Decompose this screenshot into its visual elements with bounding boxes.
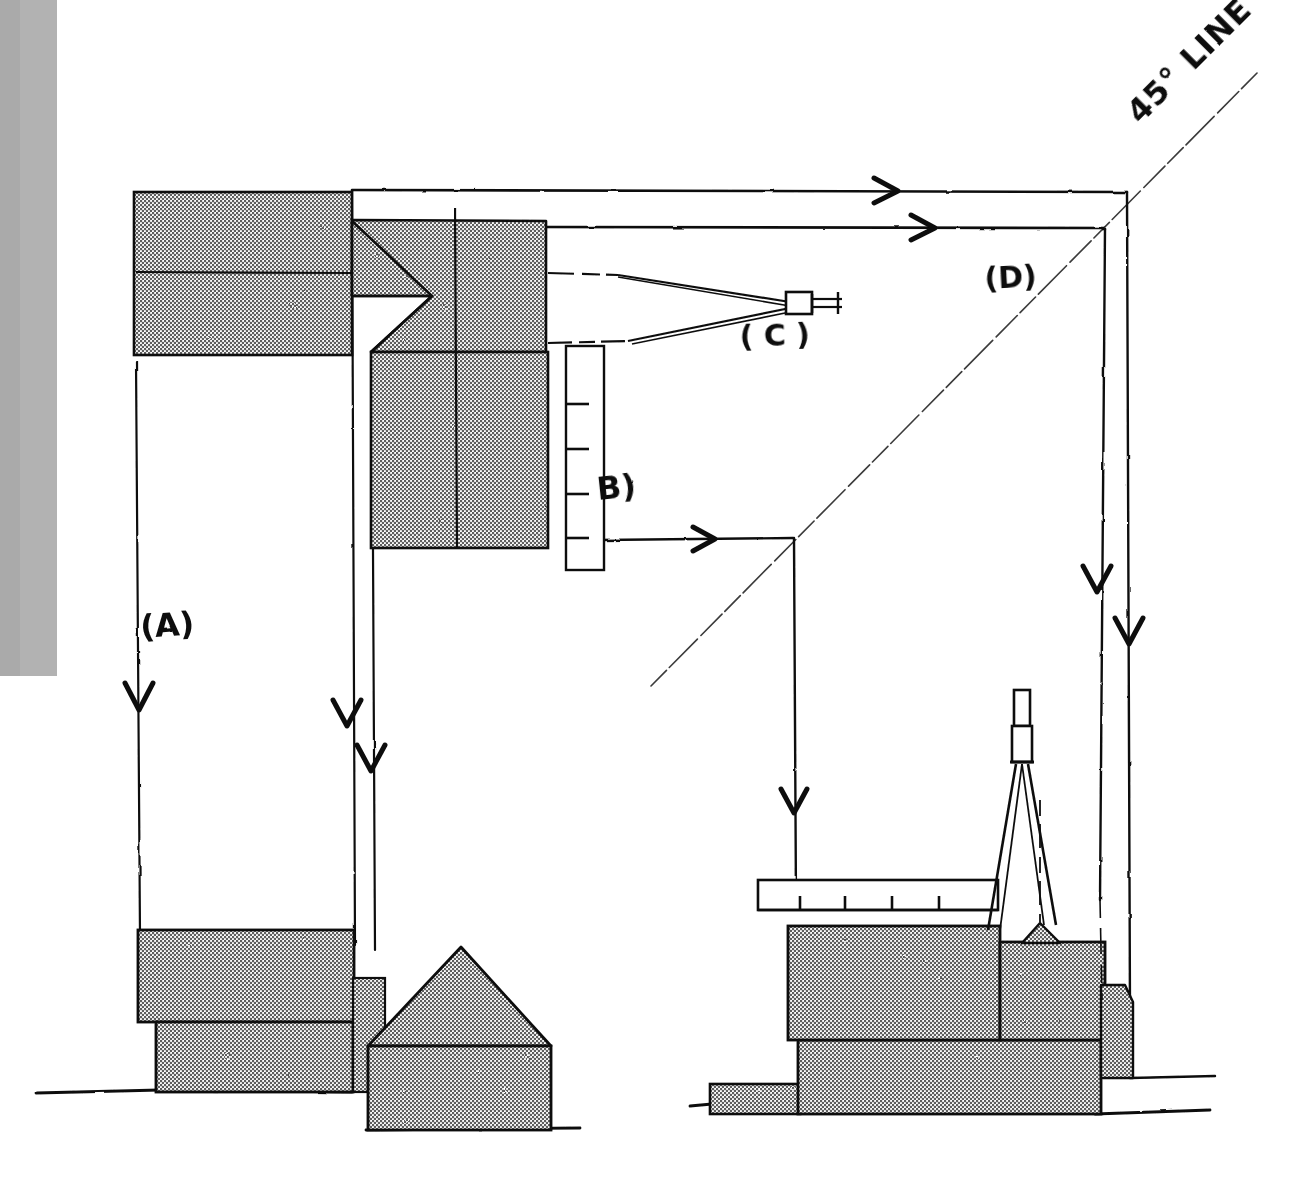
right-vertical-arrowheads bbox=[1083, 566, 1143, 644]
bottom-right-building bbox=[690, 690, 1215, 1114]
flat-roof-building bbox=[138, 930, 385, 1092]
upper-left-block bbox=[134, 192, 352, 355]
top-flow-arrowheads bbox=[874, 178, 935, 240]
upper-center-block bbox=[352, 220, 546, 352]
bottom-left-building bbox=[36, 930, 580, 1130]
right-building-masses bbox=[710, 923, 1133, 1114]
sighting-instrument-c bbox=[786, 292, 842, 314]
right-vertical-flow-lines bbox=[1100, 192, 1130, 1013]
forty-five-degree-line bbox=[651, 72, 1258, 686]
gable-roof-building bbox=[368, 947, 551, 1130]
vertical-graduated-staff bbox=[566, 346, 604, 570]
upper-left-block-group bbox=[134, 192, 548, 549]
technical-sketch: (A) B) ( C ) (D) 45° LINE bbox=[0, 0, 1311, 1187]
center-lower-block bbox=[371, 352, 548, 548]
drawing-canvas: (A) B) ( C ) (D) 45° LINE bbox=[0, 0, 1311, 1187]
scan-margin-shadow bbox=[0, 0, 57, 676]
left-vertical-arrowheads bbox=[125, 683, 385, 771]
label-45-line: 45° LINE bbox=[1119, 0, 1259, 131]
label-a: (A) bbox=[139, 604, 196, 646]
label-c: ( C ) bbox=[739, 317, 811, 354]
label-b: B) bbox=[595, 466, 638, 508]
label-d: (D) bbox=[984, 258, 1038, 296]
middle-flow-lines bbox=[600, 538, 796, 905]
middle-flow-arrowheads bbox=[693, 527, 807, 813]
horizontal-graduated-rod bbox=[758, 880, 998, 911]
